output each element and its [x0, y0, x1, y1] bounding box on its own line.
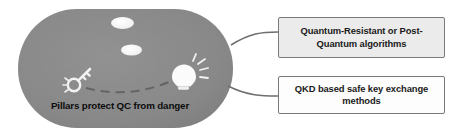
callout-box-pqc[interactable]: Quantum-Resistant or Post- Quantum algor… [278, 17, 445, 58]
callout-qkd-line2: methods [342, 95, 380, 106]
callout-pqc-line2: Quantum algorithms [317, 38, 407, 49]
callout-box-pqc-label: Quantum-Resistant or Post- Quantum algor… [285, 25, 438, 50]
callout-pqc-line1: Quantum-Resistant or Post- [301, 25, 423, 36]
central-shape-caption: Pillars protect QC from danger [30, 100, 210, 111]
connector-line-qkd [228, 86, 278, 96]
callout-box-qkd[interactable]: QKD based safe key exchange methods [278, 76, 445, 114]
callout-qkd-line1: QKD based safe key exchange [295, 83, 428, 94]
blob-upper-icon [111, 17, 134, 29]
blob-lower-icon [121, 45, 142, 56]
diagram-canvas: Pillars protect QC from danger Quantum-R… [0, 0, 464, 133]
connector-line-pqc [231, 32, 278, 45]
callout-box-qkd-label: QKD based safe key exchange methods [285, 83, 438, 108]
